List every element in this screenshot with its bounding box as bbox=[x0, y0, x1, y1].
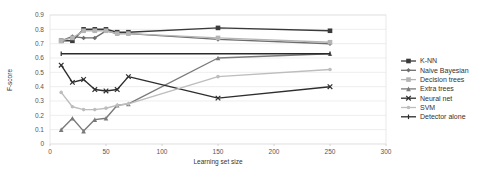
y-tick-label: 0.8 bbox=[35, 26, 44, 33]
y-tick-label: 0.4 bbox=[35, 83, 44, 90]
square-marker-icon bbox=[216, 36, 221, 41]
y-tick-label: 0.6 bbox=[35, 54, 44, 61]
x-tick-label: 300 bbox=[381, 148, 392, 155]
star-marker-icon bbox=[127, 102, 131, 106]
square-marker-icon bbox=[59, 39, 64, 44]
x-tick-label: 200 bbox=[269, 148, 280, 155]
square-marker-icon bbox=[328, 28, 333, 33]
y-tick-label: 0 bbox=[40, 140, 44, 147]
star-marker-icon bbox=[71, 105, 75, 109]
triangle-marker-icon bbox=[70, 116, 75, 121]
square-marker-icon bbox=[81, 28, 86, 33]
star-marker-icon bbox=[93, 108, 97, 112]
legend-item: K-NN bbox=[401, 57, 437, 64]
star-marker-icon bbox=[115, 104, 119, 108]
square-marker-icon bbox=[70, 36, 75, 41]
y-tick-label: 0.1 bbox=[35, 126, 44, 133]
x-axis-title: Learning set size bbox=[193, 158, 243, 166]
legend-label: Neural net bbox=[420, 95, 452, 102]
y-tick-label: 0.3 bbox=[35, 97, 44, 104]
y-tick-label: 0.7 bbox=[35, 40, 44, 47]
star-marker-icon bbox=[216, 75, 220, 79]
f-score-line-chart: 00.10.20.30.40.50.60.70.80.9050100150200… bbox=[0, 0, 481, 174]
square-marker-icon bbox=[216, 26, 221, 31]
x-tick-label: 50 bbox=[102, 148, 110, 155]
legend-item: Naive Bayesian bbox=[401, 67, 469, 75]
legend-item: SVM bbox=[401, 104, 435, 111]
legend-item: Neural net bbox=[401, 95, 452, 102]
square-marker-icon bbox=[93, 28, 98, 33]
chart-canvas: 00.10.20.30.40.50.60.70.80.9050100150200… bbox=[0, 0, 481, 174]
legend-label: Decision trees bbox=[420, 76, 465, 83]
legend-label: K-NN bbox=[420, 57, 437, 64]
square-marker-icon bbox=[115, 31, 120, 36]
legend-item: Extra trees bbox=[401, 85, 454, 92]
square-marker-icon bbox=[104, 28, 109, 33]
x-tick-label: 100 bbox=[157, 148, 168, 155]
legend-label: Detector alone bbox=[420, 113, 466, 120]
legend-item: Decision trees bbox=[401, 76, 465, 83]
legend-label: SVM bbox=[420, 104, 435, 111]
y-tick-label: 0.5 bbox=[35, 69, 44, 76]
square-marker-icon bbox=[328, 40, 333, 45]
x-tick-label: 0 bbox=[48, 148, 52, 155]
square-marker-icon bbox=[126, 31, 131, 36]
square-marker-icon bbox=[406, 59, 411, 64]
series-neural-net bbox=[59, 63, 332, 101]
x-tick-label: 150 bbox=[213, 148, 224, 155]
star-marker-icon bbox=[59, 91, 63, 95]
star-marker-icon bbox=[407, 106, 411, 110]
star-marker-icon bbox=[328, 68, 332, 72]
legend-label: Naive Bayesian bbox=[420, 67, 469, 75]
legend-item: Detector alone bbox=[401, 113, 466, 120]
star-marker-icon bbox=[82, 108, 86, 112]
star-marker-icon bbox=[104, 106, 108, 110]
y-tick-label: 0.2 bbox=[35, 112, 44, 119]
legend: K-NNNaive BayesianDecision treesExtra tr… bbox=[401, 57, 469, 120]
y-axis-title: F-score bbox=[6, 69, 13, 91]
legend-label: Extra trees bbox=[420, 85, 454, 92]
y-tick-label: 0.9 bbox=[35, 11, 44, 18]
diamond-marker-icon bbox=[406, 68, 411, 73]
square-marker-icon bbox=[406, 77, 411, 82]
diamond-marker-icon bbox=[81, 36, 86, 41]
x-tick-label: 250 bbox=[325, 148, 336, 155]
x-marker-icon bbox=[59, 63, 64, 68]
series-lines bbox=[59, 26, 332, 134]
